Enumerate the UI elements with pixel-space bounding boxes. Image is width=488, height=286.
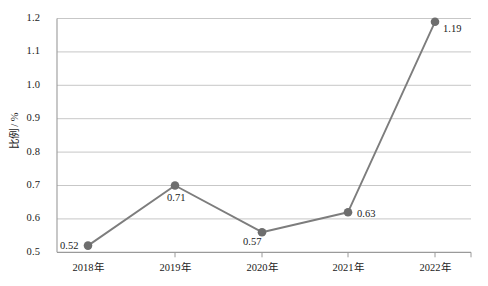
x-tick-label-2018: 2018年 — [43, 262, 133, 274]
x-tick-label-2021: 2021年 — [303, 262, 393, 274]
line-chart: 比例 / % 1.2 1.1 1.0 0.9 0.8 0.7 0.6 0.5 — [0, 0, 488, 286]
data-point-2021 — [344, 208, 353, 217]
data-label-2019: 0.71 — [167, 192, 185, 203]
series-line — [88, 22, 435, 246]
x-tick-label-2019: 2019年 — [130, 262, 220, 274]
series-markers — [84, 18, 440, 250]
data-point-2019 — [171, 181, 180, 190]
x-tick-label-2020: 2020年 — [217, 262, 307, 274]
data-label-2021: 0.63 — [357, 208, 375, 219]
data-label-2018: 0.52 — [60, 240, 78, 251]
data-point-2022 — [431, 18, 440, 27]
data-point-2018 — [84, 241, 93, 250]
data-label-2020: 0.57 — [243, 236, 261, 247]
x-axis-ticks — [175, 252, 471, 257]
grid-lines — [57, 19, 471, 219]
x-tick-label-2022: 2022年 — [390, 262, 480, 274]
data-label-2022: 1.19 — [443, 23, 461, 34]
